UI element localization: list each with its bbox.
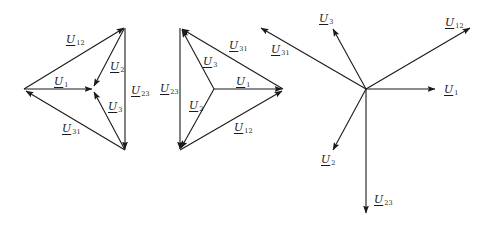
label-u1: U1	[444, 84, 458, 97]
label-u23: U23	[131, 85, 150, 98]
label-u2: U2	[189, 100, 203, 113]
label-u12: U12	[445, 17, 464, 30]
phasor-u12	[366, 28, 470, 89]
label-u31: U31	[271, 44, 290, 57]
diagram-star-phasors	[261, 28, 470, 213]
label-u31: U31	[62, 123, 81, 136]
label-u3: U3	[108, 101, 122, 114]
label-u2: U2	[110, 61, 124, 74]
phasor-u2	[181, 89, 214, 148]
label-u23: U23	[374, 194, 393, 207]
phasor-u31	[261, 28, 366, 89]
label-u12: U12	[234, 122, 253, 135]
label-u31: U31	[229, 40, 248, 53]
label-u1: U1	[54, 76, 68, 89]
label-u3: U3	[319, 13, 333, 26]
label-u12: U12	[66, 34, 85, 47]
label-u23: U23	[160, 83, 179, 96]
label-u1: U1	[236, 76, 250, 89]
label-u3: U3	[203, 56, 217, 69]
phasor-u2	[333, 89, 366, 150]
label-u2: U2	[321, 154, 335, 167]
